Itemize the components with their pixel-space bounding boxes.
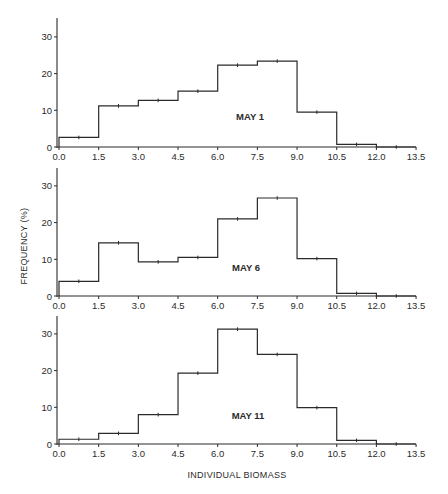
y-tick-label: 10 — [41, 105, 52, 116]
x-tick-label: 6.0 — [211, 448, 224, 459]
histogram-step-line — [59, 329, 416, 444]
x-tick-label: 9.0 — [290, 151, 303, 162]
panel-may-1: 01020300.01.53.04.56.07.59.010.512.013.5… — [41, 18, 425, 162]
histogram-step-line — [59, 61, 416, 147]
x-tick-label: 6.0 — [211, 300, 224, 311]
y-tick-label: 10 — [41, 254, 52, 265]
x-tick-label: 12.0 — [367, 448, 386, 459]
panel-may-11: 01020300.01.53.04.56.07.59.010.512.013.5… — [41, 316, 425, 459]
x-tick-label: 1.5 — [92, 300, 105, 311]
x-tick-label: 0.0 — [52, 151, 65, 162]
x-tick-label: 9.0 — [290, 448, 303, 459]
y-axis-title: FREQUENCY (%) — [19, 208, 29, 285]
x-tick-label: 12.0 — [367, 151, 386, 162]
x-tick-label: 4.5 — [171, 448, 184, 459]
x-tick-label: 7.5 — [251, 151, 264, 162]
x-tick-label: 6.0 — [211, 151, 224, 162]
panel-title: MAY 6 — [232, 262, 260, 273]
x-tick-label: 9.0 — [290, 300, 303, 311]
panel-title: MAY 1 — [236, 111, 265, 122]
y-tick-label: 20 — [41, 68, 52, 79]
x-tick-label: 13.5 — [407, 151, 426, 162]
y-tick-label: 0 — [47, 291, 52, 302]
y-tick-label: 10 — [41, 402, 52, 413]
panel-title: MAY 11 — [232, 410, 265, 421]
x-tick-label: 10.5 — [327, 448, 346, 459]
x-tick-label: 13.5 — [407, 300, 426, 311]
x-tick-label: 13.5 — [407, 448, 426, 459]
y-tick-label: 30 — [41, 31, 52, 42]
x-tick-label: 7.5 — [251, 300, 264, 311]
y-tick-label: 20 — [41, 217, 52, 228]
x-tick-label: 7.5 — [251, 448, 264, 459]
y-tick-label: 30 — [41, 180, 52, 191]
y-tick-label: 0 — [47, 142, 52, 153]
x-tick-label: 4.5 — [171, 300, 184, 311]
panel-may-6: 01020300.01.53.04.56.07.59.010.512.013.5… — [41, 168, 425, 311]
x-tick-label: 1.5 — [92, 151, 105, 162]
x-tick-label: 4.5 — [171, 151, 184, 162]
x-tick-label: 12.0 — [367, 300, 386, 311]
x-tick-label: 1.5 — [92, 448, 105, 459]
x-tick-label: 10.5 — [327, 300, 346, 311]
x-axis-title: INDIVIDUAL BIOMASS — [187, 470, 286, 480]
x-tick-label: 0.0 — [52, 448, 65, 459]
x-tick-label: 0.0 — [52, 300, 65, 311]
y-tick-label: 0 — [47, 439, 52, 450]
x-tick-label: 10.5 — [327, 151, 346, 162]
y-tick-label: 20 — [41, 365, 52, 376]
x-tick-label: 3.0 — [132, 151, 145, 162]
histogram-step-line — [59, 198, 416, 296]
x-tick-label: 3.0 — [132, 300, 145, 311]
y-tick-label: 30 — [41, 328, 52, 339]
histogram-figure: 01020300.01.53.04.56.07.59.010.512.013.5… — [0, 0, 448, 494]
x-tick-label: 3.0 — [132, 448, 145, 459]
